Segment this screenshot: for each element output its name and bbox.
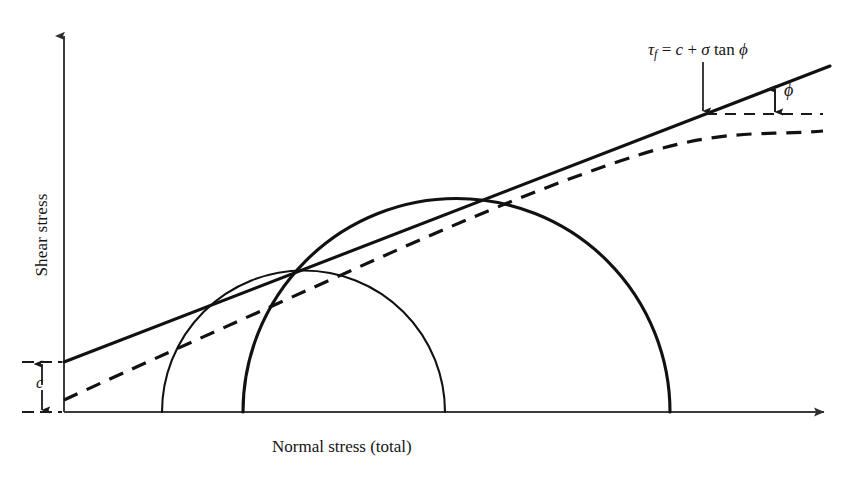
equation-phi-symbol: ϕ	[739, 40, 748, 59]
mohr-diagram-svg	[0, 0, 860, 479]
equation-tan: tan	[714, 40, 735, 59]
straight-failure-envelope	[64, 66, 830, 362]
mohr-circle-large	[243, 199, 670, 412]
mohr-coulomb-figure: Shear stress Normal stress (total) τf = …	[0, 0, 860, 479]
equation-tau-subscript: f	[654, 47, 657, 61]
cohesion-label: c	[36, 374, 43, 392]
failure-envelope-equation-label: τf = c + σ tan ϕ	[648, 40, 748, 62]
equation-plus: +	[687, 40, 697, 59]
x-axis-label: Normal stress (total)	[272, 437, 412, 457]
equation-cohesion-symbol: c	[676, 40, 684, 59]
curved-failure-envelope	[64, 131, 823, 400]
equation-sigma-symbol: σ	[701, 40, 709, 59]
phi-angle-label: ϕ	[784, 80, 793, 101]
y-axis-label: Shear stress	[32, 155, 52, 315]
equation-equals: =	[662, 40, 672, 59]
axes-group	[64, 36, 824, 412]
